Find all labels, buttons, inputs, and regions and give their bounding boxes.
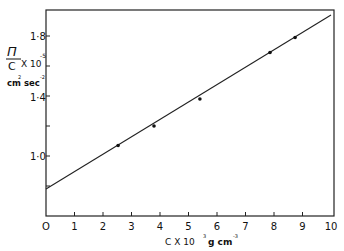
x-tick-label: 1 bbox=[71, 221, 77, 232]
svg-text:-3: -3 bbox=[233, 233, 238, 239]
svg-text:X 10: X 10 bbox=[21, 59, 42, 69]
svg-text:-2: -2 bbox=[40, 74, 45, 80]
x-tick-label: 6 bbox=[214, 221, 220, 232]
x-tick-label: 2 bbox=[100, 221, 106, 232]
y-tick-label-1.0: 1·0 bbox=[30, 151, 46, 162]
x-tick-label: 7 bbox=[242, 221, 248, 232]
x-tick-label: 5 bbox=[185, 221, 191, 232]
y-tick-label-1.8: 1·8 bbox=[30, 31, 46, 42]
data-point bbox=[152, 124, 156, 128]
plot-frame bbox=[46, 10, 334, 216]
data-point bbox=[268, 51, 272, 55]
x-axis-ticks: O12345678910 bbox=[42, 212, 337, 232]
svg-text:2: 2 bbox=[18, 74, 21, 80]
svg-text:g cm: g cm bbox=[208, 237, 232, 247]
svg-text:3: 3 bbox=[203, 233, 206, 239]
y-tick-label-1.4: 1·4 bbox=[30, 92, 46, 103]
fit-line bbox=[46, 15, 331, 189]
x-tick-label: 3 bbox=[128, 221, 134, 232]
x-tick-label: 9 bbox=[299, 221, 305, 232]
svg-text:C X 10: C X 10 bbox=[165, 237, 195, 247]
data-point bbox=[116, 144, 120, 148]
svg-text:-5: -5 bbox=[40, 52, 46, 59]
svg-text:C: C bbox=[8, 60, 16, 73]
data-point bbox=[198, 97, 202, 101]
data-point bbox=[293, 36, 297, 40]
x-tick-label: O bbox=[42, 221, 50, 232]
y-axis-label: Π C X 10 -5 cm 2 sec -2 bbox=[6, 44, 46, 88]
svg-text:Π: Π bbox=[7, 44, 17, 59]
x-tick-label: 10 bbox=[325, 221, 338, 232]
x-axis-label: C X 10 3 g cm -3 bbox=[165, 233, 238, 247]
x-tick-label: 4 bbox=[157, 221, 163, 232]
svg-text:sec: sec bbox=[24, 78, 40, 88]
x-tick-label: 8 bbox=[271, 221, 277, 232]
chart: O12345678910 1·8 1·4 1·0 Π C X 10 -5 cm … bbox=[0, 0, 344, 251]
